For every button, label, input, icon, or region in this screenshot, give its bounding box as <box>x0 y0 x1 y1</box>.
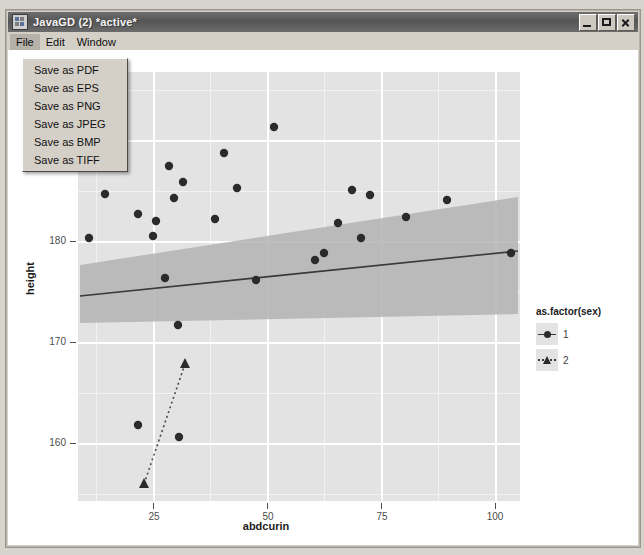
ytick-180: 180 <box>42 235 66 246</box>
ytick-170: 170 <box>42 336 66 347</box>
window-titlebar[interactable]: JavaGD (2) *active* <box>8 12 638 32</box>
legend-label-1: 1 <box>563 329 569 340</box>
xtick-75: 75 <box>373 511 391 522</box>
xtick-25: 25 <box>145 511 163 522</box>
legend-label-2: 2 <box>563 355 569 366</box>
menu-edit[interactable]: Edit <box>40 34 71 50</box>
menu-file[interactable]: File <box>10 34 40 50</box>
legend-key-triangle <box>536 349 558 371</box>
plot-geometry <box>78 72 520 501</box>
javagd-icon <box>12 14 28 30</box>
group2-connector <box>144 364 185 484</box>
legend-key-circle <box>536 323 558 345</box>
minimize-button[interactable] <box>579 14 597 31</box>
close-button[interactable] <box>617 14 635 31</box>
menu-save-as-jpeg[interactable]: Save as JPEG <box>23 115 127 133</box>
javagd-window: JavaGD (2) *active* File Edit Window <box>5 9 641 548</box>
desktop-background: JavaGD (2) *active* File Edit Window <box>0 0 644 555</box>
menu-window[interactable]: Window <box>71 34 122 50</box>
legend-entry-2: 2 <box>536 349 632 371</box>
menubar: File Edit Window <box>8 33 638 50</box>
window-controls <box>579 14 636 31</box>
plot-panel <box>78 72 520 501</box>
menu-save-as-png[interactable]: Save as PNG <box>23 97 127 115</box>
xtick-100: 100 <box>484 511 506 522</box>
window-title: JavaGD (2) *active* <box>33 16 137 28</box>
x-axis-title: abdcurin <box>243 520 289 532</box>
legend-title: as.factor(sex) <box>536 306 632 317</box>
confidence-ribbon <box>80 197 518 323</box>
y-axis-title: height <box>24 262 36 295</box>
legend-entry-1: 1 <box>536 323 632 345</box>
maximize-button[interactable] <box>598 14 616 31</box>
menu-save-as-pdf[interactable]: Save as PDF <box>23 61 127 79</box>
menu-save-as-tiff[interactable]: Save as TIFF <box>23 151 127 169</box>
menu-save-as-eps[interactable]: Save as EPS <box>23 79 127 97</box>
ytick-160: 160 <box>42 437 66 448</box>
file-menu-dropdown: Save as PDF Save as EPS Save as PNG Save… <box>22 58 128 172</box>
legend: as.factor(sex) 1 2 <box>536 306 632 375</box>
series-2-points <box>139 358 190 488</box>
menu-save-as-bmp[interactable]: Save as BMP <box>23 133 127 151</box>
